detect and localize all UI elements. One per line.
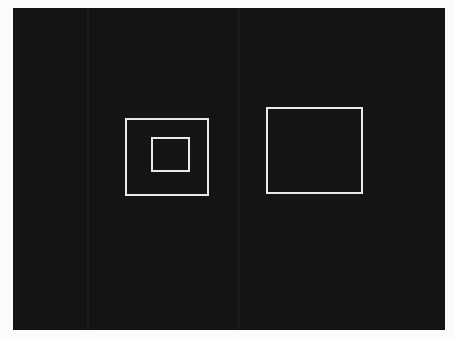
right-square <box>266 107 363 194</box>
figure-stage <box>0 0 453 339</box>
black-display-panel <box>13 8 445 330</box>
left-inner-square <box>151 137 190 172</box>
